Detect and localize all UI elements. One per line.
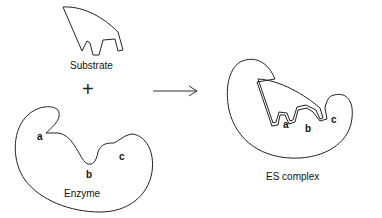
- enzyme-site-a: a: [37, 132, 43, 142]
- substrate-shape: [63, 7, 123, 55]
- es-complex-enzyme-shape: [227, 59, 352, 158]
- complex-site-a: a: [283, 120, 289, 130]
- complex-site-c: c: [331, 115, 337, 125]
- es-complex-substrate-shape: [258, 79, 323, 123]
- substrate-label: Substrate: [70, 61, 113, 71]
- diagram-canvas: [0, 0, 382, 218]
- complex-site-b: b: [305, 124, 311, 134]
- reaction-arrow: [153, 86, 197, 96]
- enzyme-site-c: c: [119, 152, 125, 162]
- es-complex-label: ES complex: [266, 172, 319, 182]
- plus-sign: +: [82, 79, 94, 99]
- enzyme-label: Enzyme: [64, 189, 100, 199]
- enzyme-site-b: b: [86, 170, 92, 180]
